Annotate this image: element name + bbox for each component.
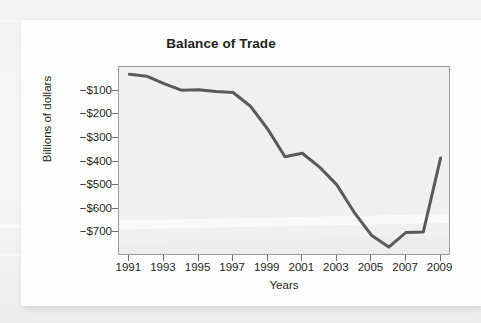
- y-axis-tick-label: −$300: [52, 131, 112, 143]
- y-axis-tick-mark: [112, 90, 118, 91]
- scanned-page-background: Balance of Trade Billions of dollars −$1…: [0, 0, 481, 323]
- y-axis-tick-mark: [112, 161, 118, 162]
- y-axis-tick-label: −$600: [52, 202, 112, 214]
- x-axis-title: Years: [118, 279, 450, 291]
- chart-figure: Balance of Trade Billions of dollars −$1…: [21, 20, 481, 306]
- plot-area: [118, 66, 450, 255]
- y-axis-tick-label: −$700: [52, 225, 112, 237]
- x-axis-tick-label: 2009: [417, 261, 463, 273]
- data-series-line: [119, 67, 450, 255]
- y-axis-tick-label: −$400: [52, 155, 112, 167]
- y-axis-tick-label: −$100: [52, 84, 112, 96]
- y-axis-tick-label: −$200: [52, 107, 112, 119]
- y-axis-tick-mark: [112, 208, 118, 209]
- y-axis-tick-label: −$500: [52, 178, 112, 190]
- y-axis-tick-mark: [112, 137, 118, 138]
- y-axis-tick-mark: [112, 231, 118, 232]
- y-axis-tick-mark: [112, 184, 118, 185]
- chart-title: Balance of Trade: [21, 36, 421, 51]
- paper-page: Balance of Trade Billions of dollars −$1…: [21, 20, 481, 306]
- y-axis-tick-mark: [112, 113, 118, 114]
- y-axis-tick-labels: −$100−$200−$300−$400−$500−$600−$700: [48, 66, 112, 255]
